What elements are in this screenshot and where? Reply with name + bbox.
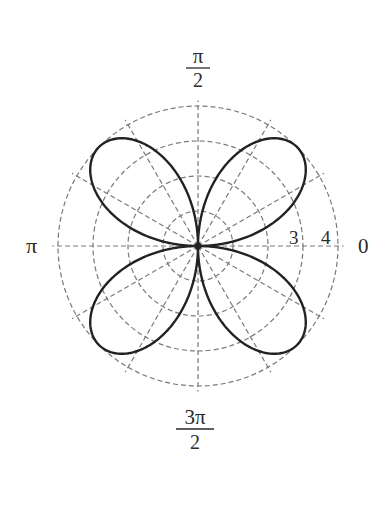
radial-label-3: 3: [289, 227, 299, 248]
angle-label-pi-over-2-denominator: 2: [193, 69, 203, 91]
angle-label-3pi-over-2-numerator: 3π: [184, 405, 206, 429]
angle-label-pi-over-2: π 2: [186, 44, 210, 91]
angle-label-0: 0: [358, 234, 369, 258]
angle-grid-line: [125, 246, 198, 372]
angle-grid-line: [125, 120, 198, 246]
angle-grid-line: [72, 173, 198, 246]
radial-label-4: 4: [321, 227, 331, 248]
angle-grid-line: [198, 120, 271, 246]
angle-label-3pi-over-2: 3π 2: [176, 405, 214, 453]
angle-grid-line: [72, 246, 198, 319]
angle-label-pi-over-2-numerator: π: [193, 44, 204, 68]
origin-point: [195, 243, 202, 250]
angle-grid-line: [198, 246, 271, 372]
polar-plot: 3 4 0 π π 2 3π 2: [0, 0, 384, 505]
angle-grid-line: [198, 246, 324, 319]
angle-label-3pi-over-2-denominator: 2: [190, 431, 200, 453]
angle-label-pi: π: [26, 233, 37, 258]
angle-grid-line: [198, 173, 324, 246]
